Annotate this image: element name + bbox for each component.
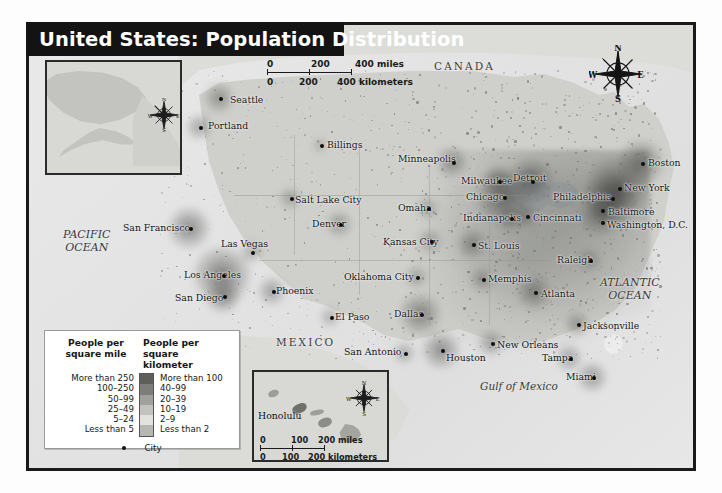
hawaii-compass-rose: N S W E	[346, 380, 382, 416]
legend-swatch-5	[140, 425, 153, 435]
alaska-compass-rose: N S W E	[147, 98, 181, 132]
city-dot-phoenix	[272, 290, 276, 294]
svg-text:S: S	[162, 127, 166, 132]
svg-text:W: W	[148, 113, 154, 119]
city-dot-boston	[641, 162, 645, 166]
city-label-las-vegas: Las Vegas	[221, 238, 268, 249]
hawaii-scale-km-0: 0	[260, 452, 266, 462]
city-label-oklahoma-city: Oklahoma City	[344, 271, 414, 282]
city-dot-oklahoma-city	[416, 276, 420, 280]
legend-swatch-2	[140, 395, 153, 405]
legend-miles-row-2: 50–99	[53, 394, 134, 404]
legend-headers: People per square mile People per square…	[53, 337, 231, 370]
city-dot-jacksonville	[577, 323, 581, 327]
city-dot-san-francisco	[189, 227, 193, 231]
svg-text:E: E	[637, 70, 643, 80]
city-label-seattle: Seattle	[230, 94, 263, 105]
city-label-portland: Portland	[208, 120, 248, 131]
hawaii-scale-miles-0: 0	[260, 435, 266, 445]
city-dot-new-york	[618, 187, 622, 191]
city-dot-el-paso	[330, 316, 334, 320]
hawaii-scale-miles-200: 200 miles	[318, 435, 363, 445]
map-frame: SeattlePortlandBillingsMinneapolisMilwau…	[26, 22, 696, 471]
hawaii-city-label: Honolulu	[258, 410, 302, 421]
city-dot-san-diego	[223, 295, 227, 299]
region-label-canada: CANADA	[434, 60, 495, 72]
city-label-milwaukee: Milwaukee	[461, 175, 513, 186]
legend-swatch-3	[140, 405, 153, 415]
city-dot-los-angeles	[222, 274, 226, 278]
legend-miles-row-1: 100–250	[53, 383, 134, 393]
svg-text:N: N	[614, 45, 622, 53]
svg-text:N: N	[362, 380, 367, 386]
legend-city-symbol: City	[53, 443, 231, 453]
city-dot-minneapolis	[452, 161, 456, 165]
city-dot-raleigh	[589, 259, 593, 263]
hawaii-island-maui	[317, 416, 333, 429]
city-label-dallas: Dallas	[394, 308, 423, 319]
city-dot-milwaukee	[498, 180, 502, 184]
city-dot-billings	[320, 144, 324, 148]
city-dot-washington-d-c	[601, 221, 605, 225]
svg-text:S: S	[615, 94, 621, 103]
city-dot-memphis	[482, 278, 486, 282]
legend-km-column: More than 10040–9920–3910–192–9Less than…	[154, 373, 223, 437]
legend-header-miles-line1: People per	[53, 337, 139, 348]
city-label-jacksonville: Jacksonville	[583, 320, 639, 331]
legend-header-km-line2: square kilometer	[143, 348, 231, 370]
city-dot-chicago	[503, 196, 507, 200]
alaska-peninsula	[55, 128, 141, 164]
city-label-memphis: Memphis	[488, 273, 532, 284]
legend-km-row-1: 40–99	[160, 383, 223, 393]
city-dot-miami	[592, 376, 596, 380]
legend-classes: More than 250100–25050–9925–495–24Less t…	[53, 373, 231, 437]
city-label-new-orleans: New Orleans	[497, 339, 558, 350]
city-dot-icon	[122, 446, 126, 450]
city-label-houston: Houston	[446, 352, 486, 363]
city-dot-denver	[339, 223, 343, 227]
legend-km-row-5: Less than 2	[160, 424, 223, 434]
city-dot-atlanta	[534, 291, 538, 295]
svg-text:W: W	[589, 70, 598, 80]
main-scale-km-0: 0	[267, 77, 273, 87]
city-dot-baltimore	[601, 209, 605, 213]
city-label-baltimore: Baltimore	[608, 206, 654, 217]
svg-text:S: S	[362, 411, 366, 416]
city-label-detroit: Detroit	[513, 172, 546, 183]
ocean-label-line1: PACIFIC	[63, 228, 111, 241]
map-legend: People per square mile People per square…	[44, 330, 240, 449]
city-dot-st-louis	[472, 243, 476, 247]
ocean-label-line2: OCEAN	[600, 289, 660, 302]
legend-km-row-3: 10–19	[160, 404, 223, 414]
alaska-inset: Anchorage 0 200 400 miles 0 200	[45, 60, 182, 175]
ocean-label-atlantic: ATLANTICOCEAN	[600, 276, 660, 302]
hawaii-island-kauai	[267, 388, 280, 398]
legend-swatch-0	[140, 374, 153, 384]
page-title: United States: Population Distribution	[39, 28, 464, 51]
city-label-atlanta: Atlanta	[541, 288, 575, 299]
gulf-of-mexico-label: Gulf of Mexico	[480, 380, 558, 392]
city-dot-omaha	[427, 207, 431, 211]
main-scale-bar: 0 200 400 miles 0 200 400 kilometers	[267, 57, 391, 89]
main-scale-miles-0: 0	[267, 59, 273, 69]
hawaii-scale-km-100: 100	[282, 452, 299, 462]
legend-miles-row-3: 25–49	[53, 404, 134, 414]
city-dot-salt-lake-city	[290, 197, 294, 201]
legend-miles-column: More than 250100–25050–9925–495–24Less t…	[53, 373, 139, 437]
city-dot-new-orleans	[491, 342, 495, 346]
hawaii-inset: Honolulu 0 100 200 miles 0 100 200 ki	[252, 370, 389, 462]
city-label-raleigh: Raleigh	[557, 254, 593, 265]
legend-city-label: City	[144, 443, 161, 453]
legend-swatch-1	[140, 384, 153, 394]
svg-text:E: E	[176, 113, 180, 119]
legend-km-row-4: 2–9	[160, 414, 223, 424]
city-dot-houston	[441, 349, 445, 353]
city-label-san-antonio: San Antonio	[344, 346, 401, 357]
city-label-new-york: New York	[624, 182, 670, 193]
legend-header-miles: People per square mile	[53, 337, 139, 370]
main-compass-rose: N S W E	[589, 45, 647, 103]
legend-color-swatches	[139, 373, 154, 437]
city-label-phoenix: Phoenix	[276, 285, 314, 296]
city-dot-indianapolis	[510, 217, 514, 221]
city-label-minneapolis: Minneapolis	[398, 153, 456, 164]
